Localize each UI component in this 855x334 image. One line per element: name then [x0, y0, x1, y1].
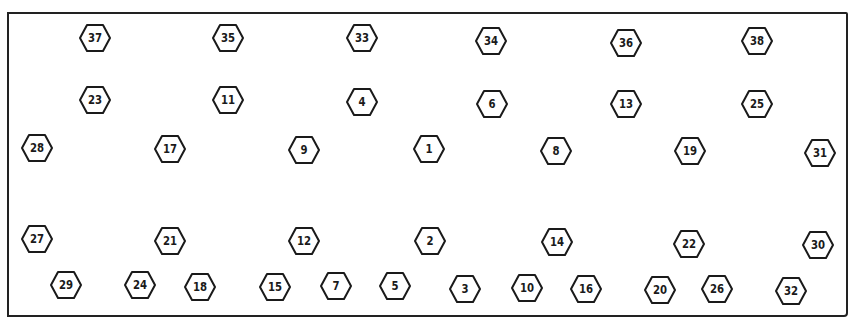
bolt-3: 3 — [448, 274, 482, 304]
bolt-7: 7 — [319, 271, 353, 301]
bolt-number: 26 — [704, 274, 731, 304]
bolt-28: 28 — [20, 133, 54, 163]
bolt-16: 16 — [569, 274, 603, 304]
bolt-20: 20 — [643, 275, 677, 305]
bolt-number: 14 — [544, 227, 571, 257]
bolt-13: 13 — [609, 89, 643, 119]
bolt-number: 37 — [82, 23, 109, 53]
bolt-number: 28 — [24, 133, 51, 163]
bolt-number: 13 — [613, 89, 640, 119]
bolt-4: 4 — [345, 87, 379, 117]
bolt-21: 21 — [153, 226, 187, 256]
bolt-24: 24 — [123, 270, 157, 300]
bolt-number: 27 — [24, 224, 51, 254]
bolt-number: 30 — [805, 230, 832, 260]
bolt-number: 2 — [417, 226, 444, 256]
bolt-37: 37 — [78, 23, 112, 53]
bolt-number: 10 — [514, 273, 541, 303]
bolt-number: 32 — [778, 276, 805, 306]
bolt-9: 9 — [287, 135, 321, 165]
bolt-number: 38 — [744, 26, 771, 56]
bolt-number: 8 — [543, 136, 570, 166]
bolt-number: 21 — [157, 226, 184, 256]
bolt-17: 17 — [153, 134, 187, 164]
bolt-6: 6 — [475, 89, 509, 119]
bolt-35: 35 — [211, 23, 245, 53]
bolt-34: 34 — [474, 26, 508, 56]
bolt-19: 19 — [673, 136, 707, 166]
bolt-5: 5 — [378, 271, 412, 301]
bolt-8: 8 — [539, 136, 573, 166]
bolt-number: 6 — [479, 89, 506, 119]
bolt-number: 20 — [647, 275, 674, 305]
bolt-number: 9 — [291, 135, 318, 165]
bolt-14: 14 — [540, 227, 574, 257]
bolt-29: 29 — [49, 270, 83, 300]
bolt-number: 35 — [215, 23, 242, 53]
bolt-32: 32 — [774, 276, 808, 306]
bolt-number: 1 — [416, 134, 443, 164]
bolt-23: 23 — [78, 85, 112, 115]
bolt-number: 36 — [613, 28, 640, 58]
bolt-number: 16 — [573, 274, 600, 304]
bolt-10: 10 — [510, 273, 544, 303]
bolt-38: 38 — [740, 26, 774, 56]
bolt-11: 11 — [211, 85, 245, 115]
bolt-18: 18 — [183, 272, 217, 302]
bolt-22: 22 — [672, 229, 706, 259]
bolt-number: 12 — [291, 226, 318, 256]
bolt-number: 11 — [215, 85, 242, 115]
bolt-2: 2 — [413, 226, 447, 256]
bolt-number: 23 — [82, 85, 109, 115]
bolt-number: 34 — [478, 26, 505, 56]
bolt-number: 19 — [677, 136, 704, 166]
bolt-number: 4 — [349, 87, 376, 117]
bolt-12: 12 — [287, 226, 321, 256]
bolt-number: 15 — [262, 272, 289, 302]
bolt-1: 1 — [412, 134, 446, 164]
bolt-31: 31 — [803, 138, 837, 168]
bolt-number: 7 — [323, 271, 350, 301]
bolt-15: 15 — [258, 272, 292, 302]
bolt-27: 27 — [20, 224, 54, 254]
bolt-30: 30 — [801, 230, 835, 260]
bolt-number: 25 — [744, 89, 771, 119]
bolt-number: 18 — [187, 272, 214, 302]
bolt-number: 5 — [382, 271, 409, 301]
bolt-25: 25 — [740, 89, 774, 119]
bolt-number: 31 — [807, 138, 834, 168]
bolt-number: 33 — [349, 23, 376, 53]
bolt-33: 33 — [345, 23, 379, 53]
bolt-number: 17 — [157, 134, 184, 164]
bolt-36: 36 — [609, 28, 643, 58]
bolt-number: 24 — [127, 270, 154, 300]
bolt-number: 3 — [452, 274, 479, 304]
bolt-number: 29 — [53, 270, 80, 300]
bolt-26: 26 — [700, 274, 734, 304]
bolt-number: 22 — [676, 229, 703, 259]
